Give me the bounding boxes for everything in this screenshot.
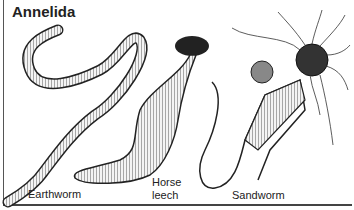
earthworm-label: Earthworm bbox=[28, 188, 81, 200]
horse-leech-label-line2: leech bbox=[152, 189, 178, 201]
sandworm-icon bbox=[200, 10, 350, 188]
sandworm-label: Sandworm bbox=[232, 189, 285, 201]
horse-leech-label-line1: Horse bbox=[152, 176, 181, 188]
